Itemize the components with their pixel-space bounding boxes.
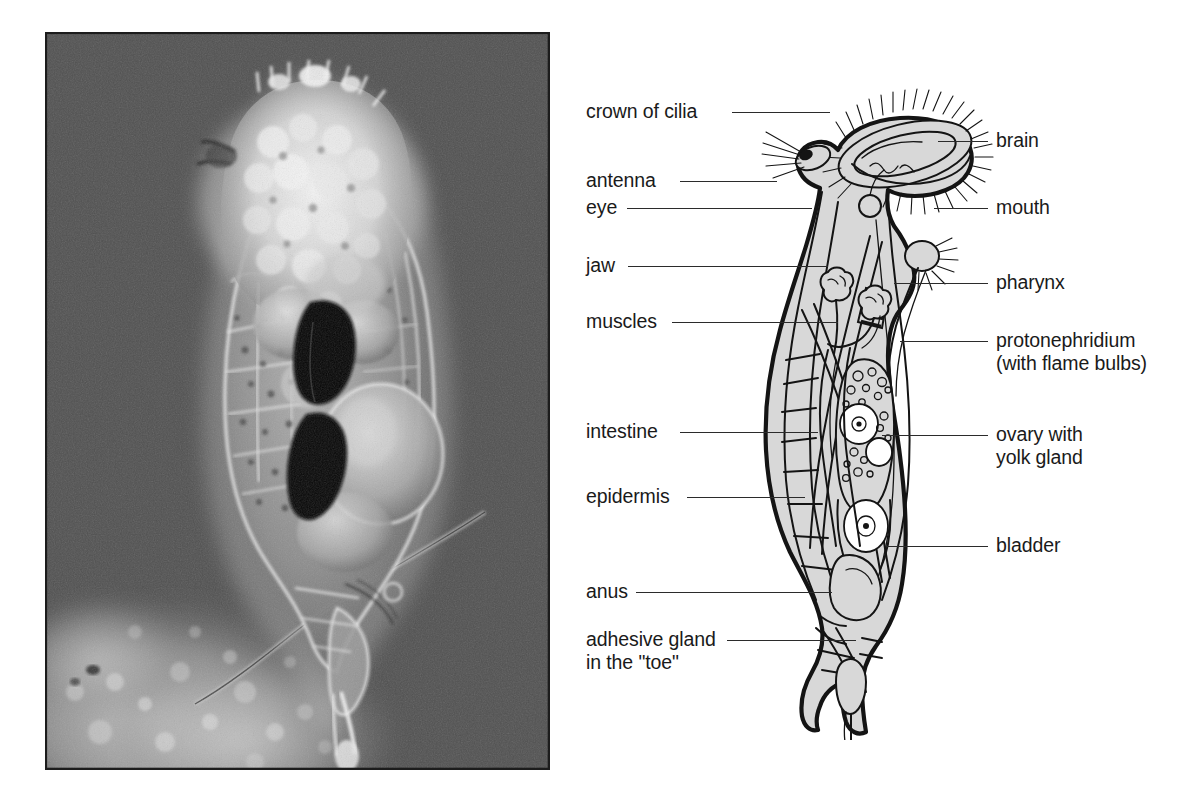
leader-pharynx [894,283,988,284]
label-protonephridium: protonephridium [996,329,1135,352]
label-antenna: antenna [586,169,656,192]
leader-ovary-with-yolk-gland [882,435,988,436]
leader-mouth [934,208,988,209]
label-ovary-with-yolk-gland-line2: yolk gland [996,446,1083,469]
figure-root: .ol { fill:#d8d8d8; stroke:#141414; stro… [0,0,1197,794]
label-crown-of-cilia: crown of cilia [586,100,697,123]
label-pharynx: pharynx [996,271,1065,294]
label-adhesive-gland-line2: in the "toe" [586,651,679,674]
leader-protonephridium [900,341,988,342]
label-mouth: mouth [996,196,1050,219]
adhesive-gland [836,659,866,714]
label-muscles: muscles [586,310,657,333]
leader-eye [627,208,812,209]
leader-muscles [672,322,838,323]
label-jaw: jaw [586,254,615,277]
brain-organ [859,195,881,217]
leader-anus [636,592,832,593]
label-protonephridium-line2: (with flame bulbs) [996,352,1147,375]
label-bladder: bladder [996,534,1060,557]
leader-intestine [680,432,818,433]
label-eye: eye [586,196,617,219]
label-anus: anus [586,580,628,603]
leader-jaw [628,266,828,267]
label-intestine: intestine [586,420,658,443]
leader-adhesive-gland [727,640,856,641]
leader-brain [938,141,988,142]
label-ovary-with-yolk-gland: ovary with [996,423,1083,446]
leader-antenna [680,181,777,182]
leader-crown-of-cilia [732,112,830,113]
leader-bladder [886,546,988,547]
label-brain: brain [996,129,1039,152]
rotifer-photomicrograph [45,32,550,770]
leader-epidermis [687,497,805,498]
label-adhesive-gland: adhesive gland [586,628,716,651]
label-epidermis: epidermis [586,485,670,508]
